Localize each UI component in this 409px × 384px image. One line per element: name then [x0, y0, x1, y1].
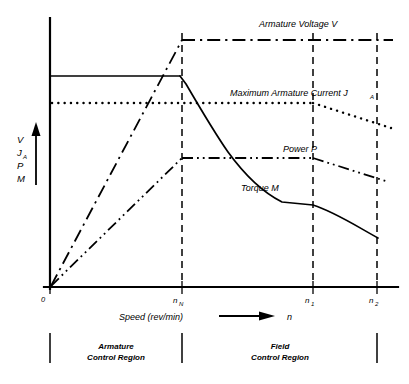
region-label-field-line2: Control Region [251, 353, 309, 362]
axes-group [44, 18, 398, 289]
x-tick-label-nN: n [173, 296, 178, 305]
x-tick-label-0: 0 [41, 295, 46, 304]
region-label-armature-group: Armature Control Region [87, 342, 145, 362]
y-axis-label-m: M [17, 173, 25, 184]
y-axis-label-group: V J A P M [16, 122, 41, 185]
voltage-ramp-segment [51, 40, 182, 286]
y-axis-label-v: V [17, 134, 25, 145]
x-tick-label-n1: n [305, 296, 310, 305]
y-axis-label-j: J [16, 147, 22, 158]
annotation-armature-current-group: Maximum Armature Current J A [230, 88, 374, 100]
region-label-armature-line2: Control Region [87, 353, 145, 362]
annotation-armature-current: Maximum Armature Current J [230, 88, 348, 98]
series-armature-current [52, 103, 391, 128]
motor-characteristic-chart: Armature Voltage V Maximum Armature Curr… [0, 0, 409, 384]
region-label-field-group: Field Control Region [251, 342, 309, 362]
power-ramp-segment [51, 158, 182, 286]
y-axis-label-p: P [17, 160, 24, 171]
series-torque [51, 76, 378, 238]
annotation-armature-voltage: Armature Voltage V [258, 19, 338, 29]
x-tick-label-n2: n [369, 296, 374, 305]
x-tick-label-n2-subscript: 2 [374, 301, 379, 307]
x-axis-arrow-head [259, 312, 275, 321]
x-axis-arrow-label: n [287, 312, 292, 322]
region-label-armature-line1: Armature [97, 342, 134, 351]
series-power [51, 158, 389, 286]
annotation-armature-current-subscript: A [369, 94, 374, 100]
current-decline-segment [313, 103, 391, 128]
x-axis-title-group: Speed (rev/min) n [119, 312, 292, 323]
x-tick-label-n1-subscript: 1 [311, 301, 314, 307]
annotation-torque: Torque M [241, 183, 279, 193]
x-tick-label-nN-subscript: N [179, 301, 184, 307]
series-armature-voltage [51, 40, 393, 286]
region-label-field-line1: Field [271, 342, 291, 351]
torque-decay-segment [180, 76, 378, 238]
x-axis-label: Speed (rev/min) [119, 312, 183, 322]
annotation-power: Power P [283, 144, 317, 154]
y-axis-arrow-head [32, 122, 41, 136]
x-tick-labels-group: 0 n N n 1 n 2 [41, 295, 379, 307]
